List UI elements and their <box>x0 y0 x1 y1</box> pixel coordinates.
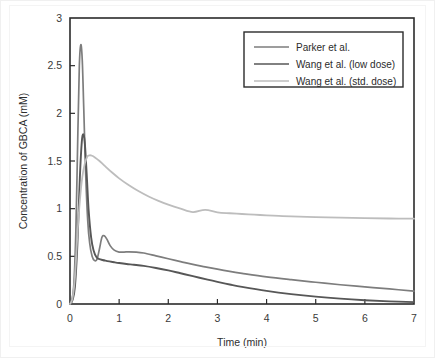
y-axis-tick-labels: 00.511.522.53 <box>47 12 62 310</box>
chart-canvas: 00.511.522.53 01234567 Concentration of … <box>1 1 435 358</box>
x-tick-label: 1 <box>116 312 122 324</box>
y-tick-label: 2.5 <box>47 59 62 71</box>
axis-tick-marks <box>70 66 365 304</box>
x-axis-tick-labels: 01234567 <box>67 312 417 324</box>
chart-legend: Parker et al.Wang et al. (low dose)Wang … <box>244 32 403 87</box>
y-tick-label: 0.5 <box>47 250 62 262</box>
legend-label-1: Wang et al. (low dose) <box>296 59 395 70</box>
series-line-1 <box>70 134 414 304</box>
y-tick-label: 0 <box>56 298 62 310</box>
x-tick-label: 0 <box>67 312 73 324</box>
x-tick-label: 6 <box>362 312 368 324</box>
y-tick-label: 2 <box>56 107 62 119</box>
legend-label-2: Wang et al. (std. dose) <box>296 76 396 87</box>
x-axis-title: Time (min) <box>217 336 267 348</box>
y-axis-title: Concentration of GBCA (mM) <box>17 93 29 230</box>
legend-label-0: Parker et al. <box>296 42 350 53</box>
x-tick-label: 7 <box>411 312 417 324</box>
x-tick-label: 5 <box>313 312 319 324</box>
x-tick-label: 4 <box>264 312 270 324</box>
figure-container: 00.511.522.53 01234567 Concentration of … <box>0 0 435 358</box>
x-tick-label: 3 <box>215 312 221 324</box>
series-line-2 <box>70 155 414 304</box>
y-tick-label: 1.5 <box>47 155 62 167</box>
y-tick-label: 1 <box>56 202 62 214</box>
x-tick-label: 2 <box>165 312 171 324</box>
y-tick-label: 3 <box>56 12 62 24</box>
